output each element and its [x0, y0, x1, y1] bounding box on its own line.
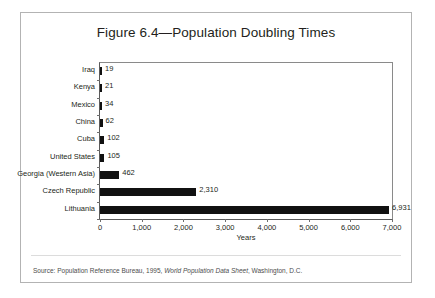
x-axis-tick: [267, 219, 268, 222]
bar: [100, 206, 389, 214]
source-suffix: , Washington, D.C.: [248, 267, 302, 274]
bar-row: Georgia (Western Asia)462: [100, 167, 392, 184]
x-axis-tick-label: 4,000: [257, 223, 276, 232]
x-axis-tick-label: 7,000: [383, 223, 402, 232]
bar: [100, 188, 196, 196]
bar-row: Lithuania6,931: [100, 202, 392, 219]
bar: [100, 171, 119, 179]
bar: [100, 136, 104, 144]
category-label: Iraq: [82, 65, 95, 74]
x-axis-tick: [100, 219, 101, 222]
x-axis-title: Years: [100, 233, 392, 242]
bar-row: Iraq19: [100, 63, 392, 80]
x-axis-tick: [225, 219, 226, 222]
bar-value-label: 62: [106, 116, 114, 125]
bar: [100, 84, 102, 92]
bar-row: Czech Republic2,310: [100, 184, 392, 201]
category-label: Kenya: [74, 82, 95, 91]
bar-value-label: 105: [107, 151, 120, 160]
bar-value-label: 34: [105, 99, 113, 108]
bar: [100, 154, 104, 162]
bar-value-label: 19: [105, 64, 113, 73]
x-axis-tick-label: 0: [98, 223, 102, 232]
x-axis-tick-label: 5,000: [299, 223, 318, 232]
source-note: Source: Population Reference Bureau, 199…: [33, 267, 302, 274]
x-axis-tick-label: 3,000: [216, 223, 235, 232]
source-publication: World Population Data Sheet: [164, 267, 248, 274]
bar: [100, 67, 102, 75]
x-axis-tick-label: 1,000: [132, 223, 151, 232]
source-prefix: Source: Population Reference Bureau, 199…: [33, 267, 164, 274]
figure-frame: Figure 6.4—Population Doubling Times Ira…: [20, 12, 412, 283]
x-axis-tick: [183, 219, 184, 222]
x-axis-tick-label: 6,000: [341, 223, 360, 232]
category-label: Georgia (Western Asia): [17, 169, 95, 178]
category-label: China: [75, 117, 95, 126]
bar: [100, 102, 102, 110]
bar-row: China62: [100, 115, 392, 132]
chart-plot-area: Iraq19Kenya21Mexico34China62Cuba102Unite…: [99, 62, 393, 220]
category-label: Mexico: [71, 100, 95, 109]
category-label: Cuba: [77, 134, 95, 143]
bar: [100, 119, 103, 127]
figure-title: Figure 6.4—Population Doubling Times: [21, 25, 411, 40]
category-label: Lithuania: [65, 204, 95, 213]
bar-value-label: 21: [105, 81, 113, 90]
x-axis-tick-label: 2,000: [174, 223, 193, 232]
bar-row: United States105: [100, 150, 392, 167]
bar-row: Mexico34: [100, 98, 392, 115]
bar-row: Kenya21: [100, 80, 392, 97]
category-label: United States: [50, 152, 95, 161]
x-axis-tick: [142, 219, 143, 222]
bar-value-label: 462: [122, 168, 135, 177]
category-label: Czech Republic: [42, 186, 95, 195]
source-divider: [31, 255, 401, 256]
bar-value-label: 6,931: [392, 203, 411, 212]
x-axis-tick: [309, 219, 310, 222]
bar-value-label: 102: [107, 133, 120, 142]
bar-value-label: 2,310: [199, 185, 218, 194]
x-axis-tick: [392, 219, 393, 222]
x-axis-tick: [350, 219, 351, 222]
bar-row: Cuba102: [100, 132, 392, 149]
